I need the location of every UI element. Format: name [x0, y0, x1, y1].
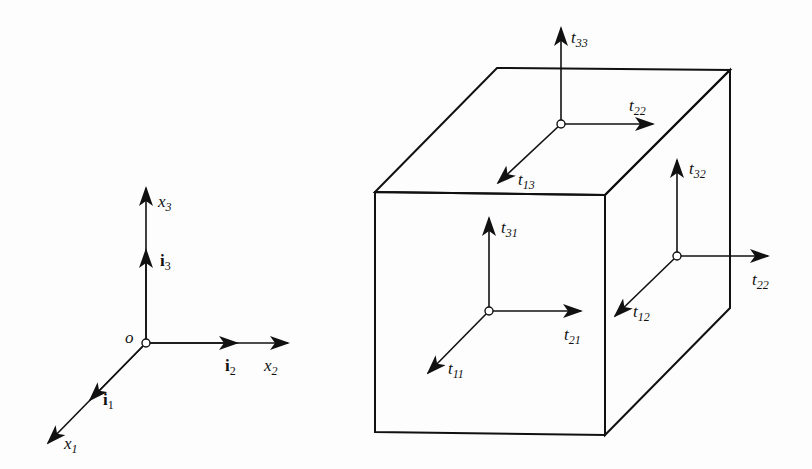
t33-label: t33	[571, 28, 588, 50]
front-face-point	[485, 307, 493, 315]
right-face-vectors	[615, 160, 768, 316]
t12-label: t12	[633, 302, 650, 324]
front-face-vectors	[428, 218, 581, 373]
i1-label: i1	[103, 390, 114, 412]
t12-arrow	[615, 256, 677, 316]
i2-label: i2	[225, 356, 236, 378]
x2-label: x2	[263, 356, 278, 378]
i1-vector	[90, 343, 146, 400]
t13-arrow	[498, 124, 561, 183]
x3-label: x3	[157, 192, 172, 214]
t22-right-label: t22	[752, 270, 769, 292]
t11-label: t11	[448, 359, 464, 381]
t22-top-label: t22	[629, 96, 646, 118]
stress-tensor-diagram: o x3 i3 i2 x2 i1 x1 t33 t22 t13 t31 t21 …	[0, 0, 812, 469]
t31-label: t31	[501, 218, 518, 240]
i3-label: i3	[160, 251, 171, 273]
t32-label: t32	[689, 159, 706, 181]
t11-arrow	[428, 311, 489, 373]
origin-label: o	[125, 328, 134, 347]
origin-point	[142, 339, 150, 347]
t13-label: t13	[518, 170, 535, 192]
diagram-canvas: o x3 i3 i2 x2 i1 x1 t33 t22 t13 t31 t21 …	[0, 0, 812, 469]
t21-label: t21	[564, 325, 581, 347]
coordinate-system	[48, 188, 288, 443]
x1-label: x1	[63, 434, 78, 456]
right-face-point	[673, 252, 681, 260]
top-face-point	[557, 120, 565, 128]
